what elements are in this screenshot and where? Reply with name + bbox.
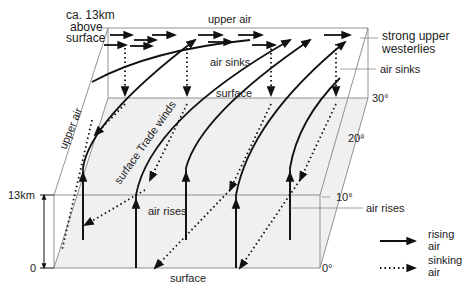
hadley-cell-diagram: ca. 13km above surface upper air upper a… [0,0,474,294]
label-strong-upper: strong upper [382,29,449,43]
label-air-sinks-mid: air sinks [210,56,251,68]
label-height-top-3: surface [66,31,106,45]
label-upper-air-side: upper air [57,106,85,151]
label-upper-air-top: upper air [208,13,252,25]
label-surface-bottom: surface [170,272,206,284]
legend-rising-label-1: rising [428,228,454,240]
height-scale [40,195,54,268]
label-13km: 13km [8,189,35,201]
legend-rising-label-2: air [428,240,441,252]
label-surface-mid: surface [216,87,252,99]
label-0km: 0 [30,262,36,274]
legend: rising air sinking air [380,228,462,278]
lat-20: 20° [348,132,365,144]
label-westerlies: westerlies [381,42,435,56]
legend-sinking-label-1: sinking [428,254,462,266]
lat-10: 10° [336,191,353,203]
label-air-rises-right: air rises [366,202,405,214]
lat-30: 30° [372,92,389,104]
label-air-sinks-right: air sinks [380,63,421,75]
label-air-rises-mid: air rises [148,205,187,217]
lat-0: 0° [322,262,333,274]
westerly-arrows [104,35,350,46]
legend-sinking-label-2: air [428,266,441,278]
